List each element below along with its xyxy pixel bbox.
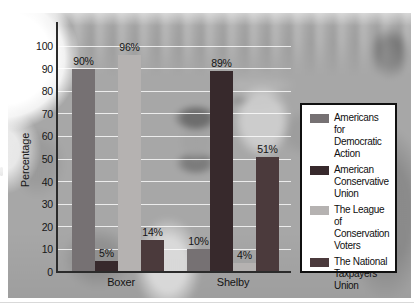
y-tick-label-60: 60 (19, 130, 53, 142)
y-tick-label-100: 100 (19, 40, 53, 52)
legend-item-1: Americans for Democratic Action (310, 112, 391, 160)
legend-label: Americans for Democratic Action (334, 112, 391, 160)
bar-boxer-4 (141, 240, 164, 272)
bar-value-label: 14% (133, 226, 173, 238)
page-edge-mark (0, 167, 3, 176)
legend-label: The League of Conservation Voters (334, 204, 391, 252)
page-bottom-rule (0, 302, 414, 303)
y-tick-label-90: 90 (19, 63, 53, 75)
bar-value-label: 5% (87, 247, 127, 259)
legend-swatch (310, 114, 329, 123)
legend-swatch (310, 166, 329, 175)
legend-item-4: The National Taxpayers Union (310, 256, 391, 292)
bar-boxer-3 (118, 55, 141, 272)
figure-page: Percentage 0102030405060708090100 90%10%… (0, 0, 414, 306)
legend-label: The National Taxpayers Union (334, 256, 391, 292)
y-tick-label-50: 50 (19, 153, 53, 165)
y-tick-label-10: 10 (19, 243, 53, 255)
bar-value-label: 4% (225, 249, 265, 261)
y-tick-label-40: 40 (19, 176, 53, 188)
bar-value-label: 10% (179, 235, 219, 247)
y-tick-label-30: 30 (19, 198, 53, 210)
bar-value-label: 51% (248, 143, 288, 155)
legend-swatch (310, 258, 329, 267)
bar-value-label: 96% (110, 41, 150, 53)
x-category-label-boxer: Boxer (91, 276, 151, 288)
y-tick-label-80: 80 (19, 85, 53, 97)
bar-value-label: 90% (64, 55, 104, 67)
y-axis-line (56, 22, 58, 273)
y-tick-label-70: 70 (19, 108, 53, 120)
legend-item-2: American Conservative Union (310, 164, 391, 200)
legend: Americans for Democratic ActionAmerican … (300, 103, 397, 273)
bar-boxer-1 (72, 69, 95, 272)
legend-label: American Conservative Union (334, 164, 391, 200)
x-axis-line (56, 271, 291, 273)
x-category-label-shelby: Shelby (203, 276, 263, 288)
bar-shelby-1 (187, 249, 210, 272)
gridline-100 (58, 46, 291, 47)
bar-value-label: 89% (202, 57, 242, 69)
y-tick-label-0: 0 (19, 266, 53, 278)
legend-swatch (310, 206, 329, 215)
legend-item-3: The League of Conservation Voters (310, 204, 391, 252)
y-tick-label-20: 20 (19, 221, 53, 233)
